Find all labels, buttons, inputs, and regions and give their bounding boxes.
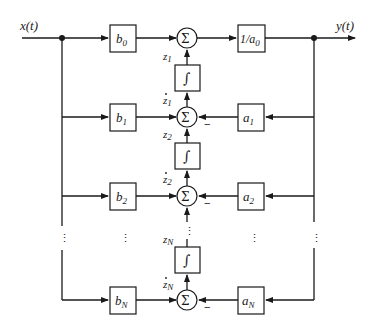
- svg-text:z1: z1: [162, 94, 172, 108]
- gain-block-b0: b0: [110, 25, 136, 52]
- gain-block-b1: b1: [110, 104, 136, 131]
- gain-block-a2: a2: [238, 183, 264, 210]
- state-label-zN-dot: zN: [162, 277, 174, 292]
- gain-block-1-over-a0: 1/a0: [238, 25, 265, 52]
- gain-block-a1: a1: [238, 104, 264, 131]
- minus-sign-N: −: [204, 301, 210, 313]
- integrator-N: ∫: [175, 247, 200, 273]
- a-column-ellipsis: ⋮: [249, 232, 260, 244]
- input-label: x(t): [19, 18, 38, 33]
- summer-0: Σ: [177, 28, 197, 48]
- summer-N: Σ: [177, 290, 197, 310]
- block-diagram: x(t) ⋮ b0 b1 b2 ⋮ bN Σ Σ Σ: [0, 0, 375, 334]
- summer-1: Σ: [177, 107, 197, 127]
- state-label-z2: z2: [162, 128, 172, 142]
- state-label-zN: zN: [162, 233, 174, 247]
- gain-block-aN: aN: [238, 287, 264, 314]
- state-label-z1: z1: [162, 50, 172, 64]
- gain-block-bN: bN: [110, 287, 136, 314]
- state-label-z1-dot: z1: [162, 93, 172, 108]
- minus-sign-2: −: [204, 197, 210, 209]
- svg-text:∫: ∫: [183, 252, 190, 268]
- gain-block-b2: b2: [110, 183, 136, 210]
- svg-text:∫: ∫: [183, 148, 190, 164]
- svg-text:Σ: Σ: [181, 294, 189, 308]
- svg-text:∫: ∫: [183, 70, 190, 86]
- svg-text:Σ: Σ: [181, 111, 189, 125]
- state-label-z2-dot: z2: [162, 172, 172, 187]
- input-bus-ellipsis: ⋮: [59, 232, 70, 244]
- output-bus-ellipsis: ⋮: [311, 232, 322, 244]
- integrator-1: ∫: [175, 65, 200, 91]
- svg-text:Σ: Σ: [181, 190, 189, 204]
- summer-2: Σ: [177, 186, 197, 206]
- b-column-ellipsis: ⋮: [120, 232, 131, 244]
- minus-sign-1: −: [204, 118, 210, 130]
- svg-text:zN: zN: [162, 278, 174, 292]
- output-label: y(t): [334, 18, 354, 33]
- chain-ellipsis: ⋮: [184, 225, 195, 237]
- integrator-2: ∫: [175, 143, 200, 169]
- svg-text:z2: z2: [162, 173, 172, 187]
- svg-text:Σ: Σ: [181, 32, 189, 46]
